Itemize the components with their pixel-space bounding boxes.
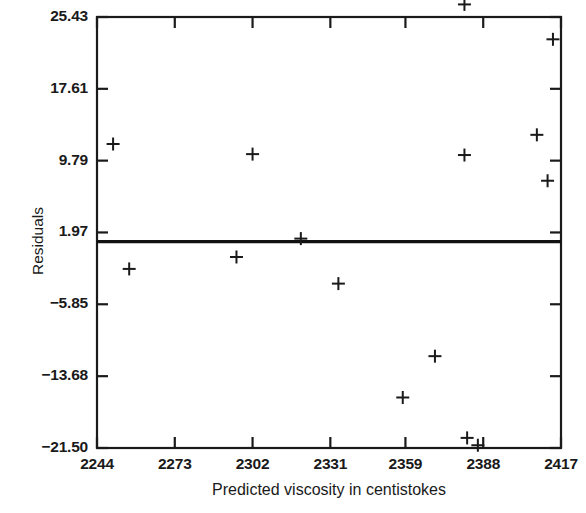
data-point	[428, 350, 441, 363]
plot-canvas	[0, 0, 586, 513]
data-point	[246, 148, 259, 161]
x-tick-label-3: 2331	[290, 455, 370, 473]
data-point	[396, 391, 409, 404]
y-tick-label-5: −13.68	[0, 366, 88, 384]
y-tick-label-1: 17.61	[0, 79, 88, 97]
data-point	[461, 431, 474, 444]
x-axis-title: Predicted viscosity in centistokes	[97, 481, 561, 499]
y-axis-title: Residuals	[29, 181, 47, 301]
data-point	[107, 138, 120, 151]
x-tick-label-4: 2359	[365, 455, 445, 473]
data-point	[546, 33, 559, 46]
y-tick-label-6: −21.50	[0, 438, 88, 456]
x-tick-label-5: 2388	[443, 455, 523, 473]
x-tick-label-2: 2302	[213, 455, 293, 473]
data-point	[530, 128, 543, 141]
x-tick-label-0: 2244	[57, 455, 137, 473]
axis-ticks	[97, 17, 561, 448]
x-tick-label-1: 2273	[135, 455, 215, 473]
data-point	[458, 149, 471, 162]
x-tick-label-6: 2417	[521, 455, 586, 473]
y-tick-label-0: 25.43	[0, 7, 88, 25]
data-point	[230, 250, 243, 263]
plot-frame	[97, 17, 561, 448]
y-tick-label-2: 9.79	[0, 151, 88, 169]
data-point	[458, 0, 471, 11]
data-point	[123, 262, 136, 275]
data-point	[541, 174, 554, 187]
data-points-group	[107, 0, 560, 452]
data-point	[332, 277, 345, 290]
residual-scatter-chart: 25.4317.619.791.97−5.85−13.68−21.50 2244…	[0, 0, 586, 513]
